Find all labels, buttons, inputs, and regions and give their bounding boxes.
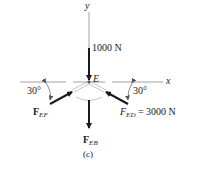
x-axis-label: x [166,76,170,86]
force-FED-arrow [106,92,128,104]
FEF-subscript: EF [39,111,48,119]
force-FEF-label: FEF [33,107,48,120]
force-FEB-label: FEB [83,135,98,148]
joint-E [88,81,91,84]
angle-right-label: 30° [133,86,147,96]
y-axis-label: y [85,1,89,11]
point-E-label: E [93,74,99,84]
member-stubs [72,81,106,101]
FED-value: = 3000 N [135,106,175,117]
angle-arc-left [46,83,51,100]
force-FEF-arrow [50,92,72,104]
force-1000N-label: 1000 N [92,43,122,53]
force-FED-label: FED = 3000 N [120,107,176,120]
angle-arc-right [128,83,132,100]
figure-caption: (c) [83,149,93,159]
angle-left-label: 30° [27,86,41,96]
FEB-subscript: EB [89,139,98,147]
